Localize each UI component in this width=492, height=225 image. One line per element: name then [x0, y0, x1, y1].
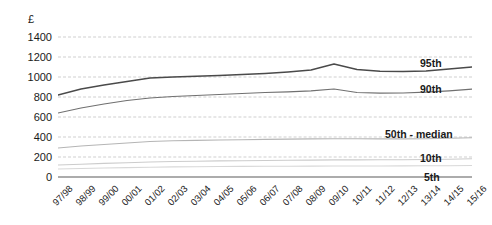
x-axis-tick-label: 08/09 [303, 183, 328, 208]
x-axis-tick-label: 12/13 [395, 183, 420, 208]
x-axis-tick-97-98: 97/98 [50, 183, 75, 208]
x-axis-tick-label: 13/14 [418, 183, 443, 208]
y-axis-tick-1200: 1200 [10, 51, 52, 63]
x-axis-tick-02-03: 02/03 [165, 183, 190, 208]
x-axis-tick-08-09: 08/09 [303, 183, 328, 208]
series-line-95th [58, 64, 472, 95]
x-axis-tick-05-06: 05/06 [234, 183, 259, 208]
x-axis-tick-label: 98/99 [73, 183, 98, 208]
x-axis-tick-label: 06/07 [257, 183, 282, 208]
series-label-10th: 10th [420, 152, 442, 164]
series-lines [58, 37, 472, 177]
x-axis-tick-label: 05/06 [234, 183, 259, 208]
x-axis-tick-label: 97/98 [50, 183, 75, 208]
series-label-90th: 90th [420, 83, 442, 95]
x-axis-tick-06-07: 06/07 [257, 183, 282, 208]
y-axis-tick-0: 0 [10, 171, 52, 183]
x-axis-tick-09-10: 09/10 [326, 183, 351, 208]
x-axis-tick-10-11: 10/11 [350, 183, 374, 207]
series-label-50th-median: 50th - median [385, 128, 453, 140]
y-axis-tick-600: 600 [10, 111, 52, 123]
x-axis-tick-label: 15/16 [464, 183, 489, 208]
x-axis-tick-labels: 97/9898/9999/0000/0101/0202/0303/0404/05… [58, 177, 472, 225]
x-axis-tick-label: 10/11 [350, 183, 374, 207]
series-line-10th [58, 159, 472, 165]
plot-area [58, 37, 472, 177]
x-axis-tick-label: 07/08 [280, 183, 305, 208]
x-axis-tick-label: 03/04 [188, 183, 213, 208]
x-axis-tick-12-13: 12/13 [395, 183, 420, 208]
x-axis-tick-label: 99/00 [96, 183, 121, 208]
x-axis-tick-15-16: 15/16 [464, 183, 489, 208]
x-axis-tick-label: 02/03 [165, 183, 190, 208]
y-axis-tick-1000: 1000 [10, 71, 52, 83]
x-axis-tick-99-00: 99/00 [96, 183, 121, 208]
x-axis-tick-00-01: 00/01 [119, 183, 144, 208]
series-label-95th: 95th [420, 57, 442, 69]
x-axis-tick-label: 09/10 [326, 183, 351, 208]
x-axis-tick-03-04: 03/04 [188, 183, 213, 208]
x-axis-tick-01-02: 01/02 [142, 183, 167, 208]
x-axis-tick-13-14: 13/14 [418, 183, 443, 208]
x-axis-tick-07-08: 07/08 [280, 183, 305, 208]
series-line-90th [58, 89, 472, 113]
y-axis-tick-1400: 1400 [10, 31, 52, 43]
x-axis-tick-98-99: 98/99 [73, 183, 98, 208]
x-axis-tick-04-05: 04/05 [211, 183, 236, 208]
x-axis-tick-label: 11/12 [373, 183, 397, 207]
x-axis-tick-11-12: 11/12 [373, 183, 397, 207]
x-axis-tick-label: 04/05 [211, 183, 236, 208]
y-axis-tick-labels: 1400120010008006004002000 [6, 0, 52, 225]
series-line-5th [58, 166, 472, 170]
y-axis-tick-800: 800 [10, 91, 52, 103]
y-axis-tick-400: 400 [10, 131, 52, 143]
x-axis-tick-label: 01/02 [142, 183, 167, 208]
x-axis-tick-14-15: 14/15 [441, 183, 466, 208]
y-axis-tick-200: 200 [10, 151, 52, 163]
line-chart: £ 1400120010008006004002000 95th90th50th… [0, 0, 492, 225]
x-axis-tick-label: 14/15 [441, 183, 466, 208]
x-axis-tick-label: 00/01 [119, 183, 144, 208]
